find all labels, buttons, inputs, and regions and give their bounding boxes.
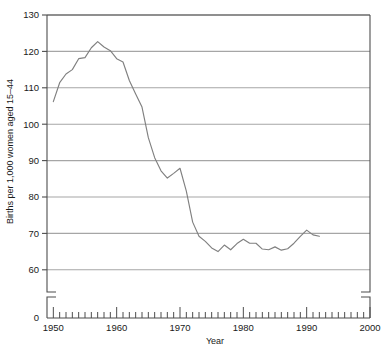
x-axis-labels: 195019601970198019902000 bbox=[43, 322, 381, 333]
axis-break-right-lower bbox=[361, 297, 370, 318]
y-tick-label-120: 120 bbox=[23, 46, 39, 57]
y-tick-label-60: 60 bbox=[28, 264, 39, 275]
fertility-rate-chart: 0607080901001101201301950196019701980199… bbox=[0, 0, 389, 353]
x-axis-title: Year bbox=[206, 336, 224, 346]
x-tick-label-1970: 1970 bbox=[169, 322, 190, 333]
y-tick-label-90: 90 bbox=[28, 155, 39, 166]
x-tick-label-1990: 1990 bbox=[296, 322, 317, 333]
axis-break-right-upper bbox=[361, 288, 370, 292]
y-tick-label-110: 110 bbox=[24, 82, 39, 93]
x-tick-label-1980: 1980 bbox=[233, 322, 254, 333]
y-tick-label-100: 100 bbox=[23, 119, 39, 130]
plot-background bbox=[47, 15, 370, 288]
x-tick-label-2000: 2000 bbox=[359, 322, 380, 333]
y-tick-label-0: 0 bbox=[34, 312, 39, 323]
x-tick-label-1960: 1960 bbox=[106, 322, 127, 333]
chart-svg: 0607080901001101201301950196019701980199… bbox=[0, 0, 389, 353]
axis-break-left-upper bbox=[47, 288, 56, 292]
y-tick-label-70: 70 bbox=[28, 228, 39, 239]
axis-break-left-lower bbox=[47, 297, 56, 318]
x-tick-label-1950: 1950 bbox=[43, 322, 64, 333]
x-axis-ticks bbox=[53, 307, 370, 318]
y-axis-title: Births per 1,000 women aged 15–44 bbox=[5, 79, 15, 224]
y-tick-label-80: 80 bbox=[28, 191, 39, 202]
y-axis-ticks: 060708090100110120130 bbox=[23, 9, 47, 323]
y-tick-label-130: 130 bbox=[23, 9, 39, 20]
